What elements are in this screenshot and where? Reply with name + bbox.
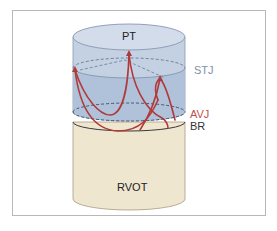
label-rvot: RVOT (117, 181, 147, 193)
pulmonary-root-diagram (0, 0, 277, 231)
label-stj: STJ (194, 64, 214, 76)
label-avj: AVJ (190, 108, 209, 120)
label-pt: PT (122, 30, 136, 42)
label-br: BR (190, 120, 205, 132)
rvot-cylinder (73, 122, 185, 210)
